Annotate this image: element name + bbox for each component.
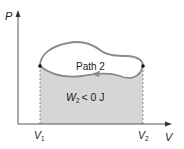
state-point-1 bbox=[38, 64, 42, 68]
state-point-2 bbox=[141, 64, 145, 68]
work-value: < 0 J bbox=[82, 91, 105, 103]
work-subscript: 2 bbox=[76, 97, 80, 104]
pv-diagram: P V Path 2 W2< 0 J V1 V2 bbox=[0, 0, 184, 149]
x-axis-label: V bbox=[165, 131, 174, 143]
v2-label: V2 bbox=[138, 129, 149, 142]
y-axis-arrow-icon bbox=[16, 10, 21, 17]
v1-label: V1 bbox=[34, 129, 45, 142]
path-label: Path 2 bbox=[76, 61, 105, 72]
x-axis-arrow-icon bbox=[165, 122, 172, 127]
y-axis-label: P bbox=[5, 10, 13, 22]
work-label: W2< 0 J bbox=[66, 91, 105, 104]
